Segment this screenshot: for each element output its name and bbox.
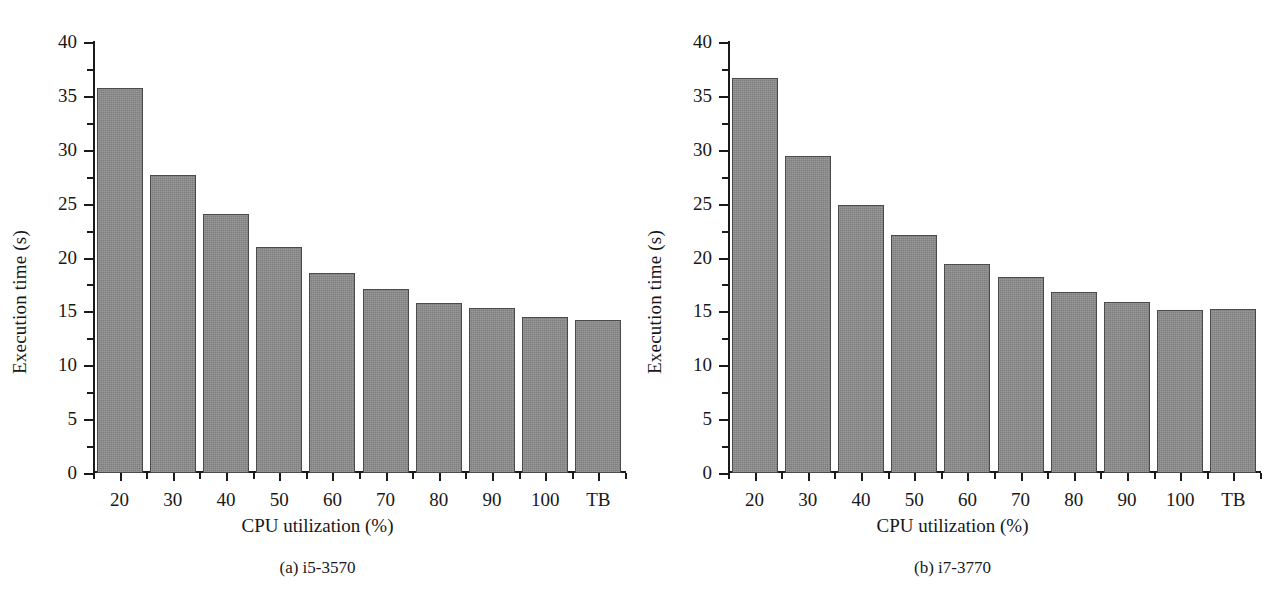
y-axis-tick-label: 40	[58, 32, 77, 51]
y-axis-tick-label: 30	[693, 140, 712, 159]
x-axis-tick-label: 40	[852, 490, 871, 509]
x-axis-tick	[914, 473, 916, 481]
y-axis-minor-tick	[87, 177, 93, 179]
x-axis-tick-label: 30	[163, 490, 182, 509]
y-axis-tick-label: 20	[693, 248, 712, 267]
x-axis-minor-tick	[199, 473, 201, 479]
x-axis-minor-tick	[1207, 473, 1209, 479]
y-axis-tick-label: 10	[58, 355, 77, 374]
y-axis-tick: 0	[84, 473, 93, 475]
x-axis-tick-label: 90	[483, 490, 502, 509]
plot-area-b: 0510152025303540 2030405060708090100TB	[728, 42, 1260, 473]
panel-caption-a: (a) i5-3570	[0, 558, 635, 578]
x-axis-minor-tick	[1260, 473, 1262, 479]
bar	[785, 156, 831, 473]
bar	[575, 320, 621, 473]
bar	[1051, 292, 1097, 473]
y-axis-tick-label: 20	[58, 248, 77, 267]
y-axis-minor-tick	[87, 284, 93, 286]
x-axis-tick-label: TB	[1221, 490, 1245, 509]
x-axis-tick	[226, 473, 228, 481]
plot-area-a: 0510152025303540 2030405060708090100TB	[93, 42, 625, 473]
y-axis-tick: 10	[84, 365, 93, 367]
x-axis-tick	[545, 473, 547, 481]
bar	[309, 273, 355, 473]
x-axis-tick	[1180, 473, 1182, 481]
y-axis-tick: 20	[84, 258, 93, 260]
bar	[1210, 309, 1256, 473]
y-axis-tick: 30	[84, 150, 93, 152]
x-axis-minor-tick	[146, 473, 148, 479]
y-axis-minor-tick	[722, 446, 728, 448]
y-axis-minor-tick	[87, 123, 93, 125]
y-axis-tick: 5	[719, 419, 728, 421]
y-axis-minor-tick	[722, 69, 728, 71]
x-axis-minor-tick	[888, 473, 890, 479]
x-axis-tick-label: 70	[376, 490, 395, 509]
bar	[469, 308, 515, 473]
y-axis-tick: 30	[719, 150, 728, 152]
y-axis-tick: 15	[84, 311, 93, 313]
x-axis-tick-label: 60	[323, 490, 342, 509]
x-axis-tick-label: 100	[1166, 490, 1195, 509]
bar	[522, 317, 568, 473]
chart-panel-b: Execution time (s) 0510152025303540 2030…	[635, 0, 1270, 604]
y-axis-tick: 40	[84, 42, 93, 44]
x-axis-tick-label: 100	[531, 490, 560, 509]
x-axis-minor-tick	[253, 473, 255, 479]
x-axis-minor-tick	[1154, 473, 1156, 479]
y-axis-tick-label: 15	[693, 301, 712, 320]
y-axis-tick-label: 25	[693, 194, 712, 213]
x-axis-minor-tick	[572, 473, 574, 479]
y-axis-tick-label: 0	[68, 463, 78, 482]
y-axis-tick: 20	[719, 258, 728, 260]
x-axis-tick-label: 50	[270, 490, 289, 509]
x-axis-minor-tick	[359, 473, 361, 479]
y-axis-minor-tick	[722, 177, 728, 179]
x-axis-minor-tick	[728, 473, 730, 479]
x-axis-minor-tick	[93, 473, 95, 479]
y-axis-minor-tick	[87, 392, 93, 394]
x-axis-tick	[1233, 473, 1235, 481]
bar	[97, 88, 143, 473]
y-axis-minor-tick	[722, 123, 728, 125]
x-axis-tick-label: 80	[429, 490, 448, 509]
y-axis-tick-label: 15	[58, 301, 77, 320]
x-axis-minor-tick	[781, 473, 783, 479]
y-axis-minor-tick	[722, 338, 728, 340]
y-axis-tick-label: 5	[68, 409, 78, 428]
x-axis-minor-tick	[1100, 473, 1102, 479]
x-axis-minor-tick	[994, 473, 996, 479]
x-axis-tick	[1127, 473, 1129, 481]
x-axis-tick	[386, 473, 388, 481]
x-axis-tick	[755, 473, 757, 481]
y-axis-tick: 5	[84, 419, 93, 421]
x-axis-minor-tick	[625, 473, 627, 479]
y-axis-minor-tick	[722, 231, 728, 233]
x-axis-minor-tick	[1047, 473, 1049, 479]
x-axis-tick	[120, 473, 122, 481]
y-axis-tick-label: 35	[58, 86, 77, 105]
bar-series-a	[93, 42, 625, 473]
x-axis-tick-label: 60	[958, 490, 977, 509]
x-axis-minor-tick	[941, 473, 943, 479]
x-axis-tick	[332, 473, 334, 481]
x-axis-tick	[439, 473, 441, 481]
x-axis-tick	[1074, 473, 1076, 481]
x-axis-tick	[492, 473, 494, 481]
y-axis-minor-tick	[87, 69, 93, 71]
y-axis-minor-tick	[87, 446, 93, 448]
y-axis-tick: 10	[719, 365, 728, 367]
x-axis-tick	[967, 473, 969, 481]
y-axis-tick-label: 25	[58, 194, 77, 213]
x-axis-minor-tick	[465, 473, 467, 479]
x-axis-tick-label: 50	[905, 490, 924, 509]
x-axis-tick	[861, 473, 863, 481]
bar	[256, 247, 302, 473]
x-axis-tick-label: 20	[745, 490, 764, 509]
bar	[838, 205, 884, 473]
x-axis-tick	[279, 473, 281, 481]
x-axis-minor-tick	[519, 473, 521, 479]
y-axis-tick-label: 10	[693, 355, 712, 374]
y-axis-tick: 25	[84, 204, 93, 206]
